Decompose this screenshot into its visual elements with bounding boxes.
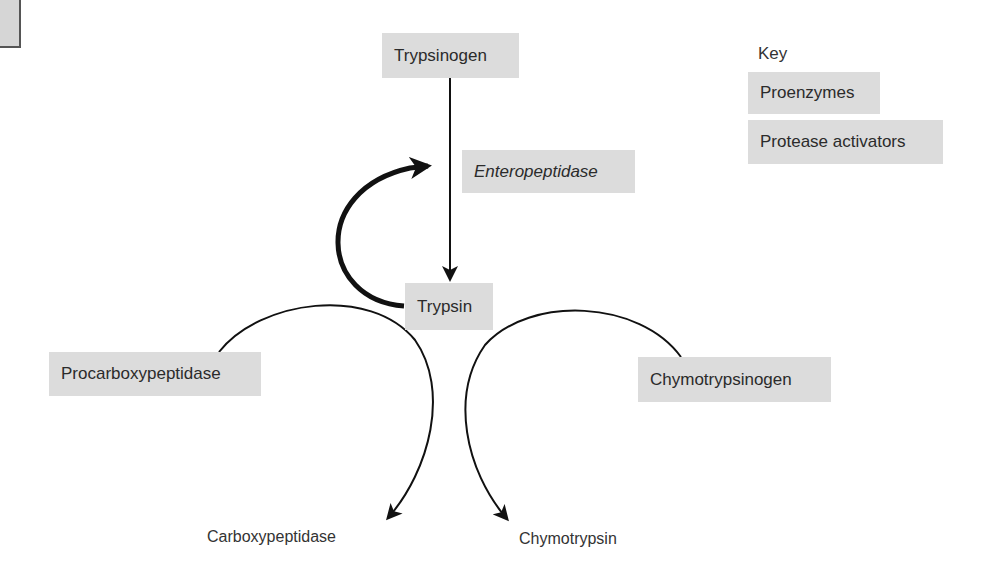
node-label: Trypsinogen xyxy=(394,46,487,66)
key-label: Proenzymes xyxy=(760,83,854,103)
node-chymotrypsin: Chymotrypsin xyxy=(519,530,617,548)
node-label: Trypsin xyxy=(417,297,472,317)
node-carboxypeptidase: Carboxypeptidase xyxy=(207,528,336,546)
node-label: Procarboxypeptidase xyxy=(61,364,221,384)
node-enteropeptidase: Enteropeptidase xyxy=(462,150,635,193)
node-chymotrypsinogen: Chymotrypsinogen xyxy=(638,357,831,402)
key-title: Key xyxy=(758,44,787,64)
key-item-proenzymes: Proenzymes xyxy=(748,72,880,114)
node-label: Chymotrypsinogen xyxy=(650,370,792,390)
key-item-protease-activators: Protease activators xyxy=(748,120,943,164)
node-label: Enteropeptidase xyxy=(474,162,598,182)
node-trypsin: Trypsin xyxy=(405,283,493,330)
node-procarboxypeptidase: Procarboxypeptidase xyxy=(49,352,261,396)
key-label: Protease activators xyxy=(760,132,906,152)
procarboxypeptidase-arc xyxy=(219,305,433,518)
node-trypsinogen: Trypsinogen xyxy=(382,33,519,78)
chymotrypsinogen-arc xyxy=(465,311,681,519)
